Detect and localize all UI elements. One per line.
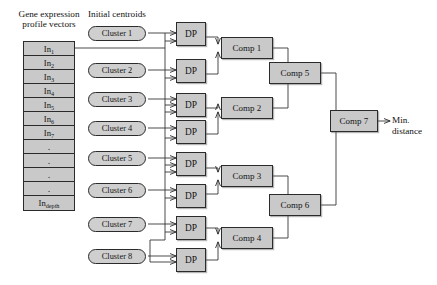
comparator-label: Comp 2: [233, 103, 262, 113]
vector-row-ellipsis: .: [24, 140, 74, 154]
cluster-pill-5[interactable]: Cluster 5: [88, 151, 146, 166]
comparator-2[interactable]: Comp 2: [221, 97, 273, 119]
comparator-label: Comp 3: [233, 171, 262, 181]
vector-row-subscript: 3: [51, 76, 54, 83]
cluster-pill-label: Cluster 2: [102, 66, 132, 75]
dp-unit-5[interactable]: DP: [176, 152, 206, 176]
dp-unit-label: DP: [185, 223, 197, 233]
comparator-5[interactable]: Comp 5: [269, 62, 321, 84]
vector-row-label: In1: [44, 44, 54, 54]
dp-unit-7[interactable]: DP: [176, 216, 206, 240]
vector-row: Indepth: [24, 196, 74, 210]
vector-row: In3: [24, 70, 74, 84]
cluster-pill-3[interactable]: Cluster 3: [88, 92, 146, 107]
cluster-pill-1[interactable]: Cluster 1: [88, 26, 146, 41]
cluster-pill-label: Cluster 3: [102, 95, 132, 104]
vector-row-label: In5: [44, 100, 54, 110]
dp-unit-6[interactable]: DP: [176, 184, 206, 208]
vector-row: In1: [24, 42, 74, 56]
comparator-label: Comp 7: [340, 116, 369, 126]
cluster-pill-2[interactable]: Cluster 2: [88, 63, 146, 78]
comparator-label: Comp 6: [281, 200, 310, 210]
vector-row-label: In2: [44, 58, 54, 68]
comparator-4[interactable]: Comp 4: [221, 227, 273, 249]
cluster-pill-label: Cluster 5: [102, 154, 132, 163]
vector-row-subscript: 1: [51, 48, 54, 55]
dp-unit-label: DP: [185, 66, 197, 76]
vector-row-ellipsis: .: [24, 154, 74, 168]
vector-row-subscript: 7: [51, 132, 54, 139]
min-distance-label: Min. distance: [392, 115, 436, 137]
comparator-3[interactable]: Comp 3: [221, 165, 273, 187]
initial-centroids-label: Initial centroids: [88, 9, 178, 19]
cluster-pill-7[interactable]: Cluster 7: [88, 217, 146, 232]
cluster-pill-label: Cluster 8: [102, 252, 132, 261]
vector-row-subscript: depth: [46, 202, 60, 209]
comparator-label: Comp 5: [281, 68, 310, 78]
dp-unit-3[interactable]: DP: [176, 93, 206, 117]
cluster-pill-8[interactable]: Cluster 8: [88, 249, 146, 264]
dp-unit-8[interactable]: DP: [176, 248, 206, 272]
vector-row-subscript: 5: [51, 104, 54, 111]
cluster-pill-6[interactable]: Cluster 6: [88, 183, 146, 198]
vector-row-label: In3: [44, 72, 54, 82]
vector-row: In4: [24, 84, 74, 98]
dp-unit-label: DP: [185, 100, 197, 110]
diagram-canvas: Gene expression profile vectors Initial …: [0, 0, 437, 285]
comparator-7[interactable]: Comp 7: [330, 110, 378, 132]
dp-unit-1[interactable]: DP: [176, 22, 206, 46]
comparator-label: Comp 1: [233, 43, 262, 53]
vector-row: In6: [24, 112, 74, 126]
vector-row: In2: [24, 56, 74, 70]
dp-unit-4[interactable]: DP: [176, 120, 206, 144]
gene-expression-label: Gene expression profile vectors: [6, 9, 92, 30]
comparator-label: Comp 4: [233, 233, 262, 243]
vector-row-subscript: 4: [51, 90, 54, 97]
vector-row-subscript: 6: [51, 118, 54, 125]
vector-row-subscript: 2: [51, 62, 54, 69]
dp-unit-label: DP: [185, 29, 197, 39]
dp-unit-2[interactable]: DP: [176, 59, 206, 83]
cluster-pill-label: Cluster 7: [102, 220, 132, 229]
cluster-pill-label: Cluster 6: [102, 186, 132, 195]
vector-row-ellipsis: .: [24, 182, 74, 196]
comparator-6[interactable]: Comp 6: [269, 194, 321, 216]
cluster-pill-label: Cluster 4: [102, 124, 132, 133]
vector-row-label: In7: [44, 128, 54, 138]
dp-unit-label: DP: [185, 159, 197, 169]
cluster-pill-4[interactable]: Cluster 4: [88, 121, 146, 136]
cluster-pill-label: Cluster 1: [102, 29, 132, 38]
vector-row-ellipsis: .: [24, 168, 74, 182]
comparator-1[interactable]: Comp 1: [221, 37, 273, 59]
dp-unit-label: DP: [185, 191, 197, 201]
vector-row: In7: [24, 126, 74, 140]
input-vector-stack: In1In2In3In4In5In6In7....Indepth: [23, 41, 75, 211]
vector-row-label: In6: [44, 114, 54, 124]
dp-unit-label: DP: [185, 255, 197, 265]
vector-row-label: Indepth: [39, 198, 60, 208]
vector-row: In5: [24, 98, 74, 112]
vector-row-label: In4: [44, 86, 54, 96]
dp-unit-label: DP: [185, 127, 197, 137]
